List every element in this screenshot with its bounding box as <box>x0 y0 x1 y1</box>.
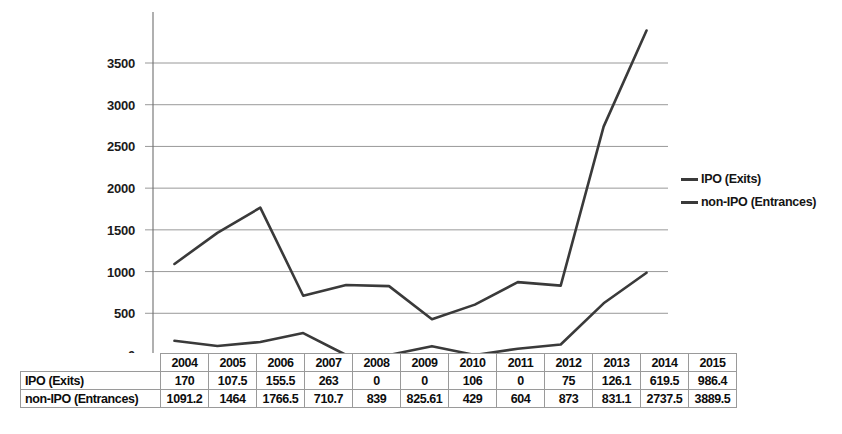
series-line <box>174 273 646 355</box>
y-axis-tick-label: 500 <box>75 306 135 321</box>
gridlines <box>145 63 668 355</box>
table-cell-value: 831.1 <box>593 390 641 408</box>
table-row: non-IPO (Entrances)1091.214641766.5710.7… <box>21 390 737 408</box>
table-header-year: 2012 <box>545 354 593 372</box>
table-cell-value: 75 <box>545 372 593 390</box>
table-header-year: 2005 <box>209 354 257 372</box>
table-header-row: 2004200520062007200820092010201120122013… <box>21 354 737 372</box>
table-cell-value: 825.61 <box>401 390 449 408</box>
table-header-year: 2006 <box>257 354 305 372</box>
table-cell-value: 1766.5 <box>257 390 305 408</box>
legend-item-ipo-exits: IPO (Exits) <box>681 172 841 186</box>
table-cell-value: 170 <box>161 372 209 390</box>
table-cell-value: 1091.2 <box>161 390 209 408</box>
table-header-year: 2011 <box>497 354 545 372</box>
table-header-year: 2008 <box>353 354 401 372</box>
legend-line-swatch-icon <box>681 178 698 181</box>
table-cell-value: 986.4 <box>689 372 737 390</box>
table-header-year: 2015 <box>689 354 737 372</box>
legend-label: non-IPO (Entrances) <box>701 195 816 209</box>
table-cell-value: 619.5 <box>641 372 689 390</box>
table-row-label: non-IPO (Entrances) <box>21 390 161 408</box>
chart-legend: IPO (Exits) non-IPO (Entrances) <box>681 172 841 218</box>
table-row: IPO (Exits)170107.5155.526300106075126.1… <box>21 372 737 390</box>
table-cell-value: 0 <box>497 372 545 390</box>
legend-label: IPO (Exits) <box>701 172 761 186</box>
table-cell-value: 839 <box>353 390 401 408</box>
table-header-year: 2009 <box>401 354 449 372</box>
y-axis-tick-label: 2500 <box>75 139 135 154</box>
chart-figure: 0500100015002000250030003500 IPO (Exits)… <box>0 0 842 434</box>
table-cell-value: 0 <box>353 372 401 390</box>
table-cell-value: 429 <box>449 390 497 408</box>
table-cell-value: 604 <box>497 390 545 408</box>
table-header-year: 2004 <box>161 354 209 372</box>
table-cell-value: 155.5 <box>257 372 305 390</box>
table-cell-value: 107.5 <box>209 372 257 390</box>
table-cell-value: 126.1 <box>593 372 641 390</box>
table-header-year: 2010 <box>449 354 497 372</box>
series-line <box>174 31 646 320</box>
y-axis-tick-label: 1000 <box>75 264 135 279</box>
table-cell-value: 2737.5 <box>641 390 689 408</box>
table-cell-value: 710.7 <box>305 390 353 408</box>
table-row-label: IPO (Exits) <box>21 372 161 390</box>
table-header-year: 2014 <box>641 354 689 372</box>
table-corner-cell <box>21 354 161 372</box>
chart-data-table: 2004200520062007200820092010201120122013… <box>20 353 737 408</box>
table-header-year: 2007 <box>305 354 353 372</box>
table-cell-value: 263 <box>305 372 353 390</box>
y-axis-tick-label: 3500 <box>75 56 135 71</box>
y-axis-tick-label: 3000 <box>75 97 135 112</box>
y-axis-tick-label: 2000 <box>75 181 135 196</box>
table-header-year: 2013 <box>593 354 641 372</box>
table-cell-value: 873 <box>545 390 593 408</box>
legend-line-swatch-icon <box>681 201 698 204</box>
table-cell-value: 3889.5 <box>689 390 737 408</box>
legend-item-non-ipo-entrances: non-IPO (Entrances) <box>681 195 841 209</box>
series-lines <box>174 31 646 355</box>
y-axis-tick-label: 1500 <box>75 222 135 237</box>
table-cell-value: 0 <box>401 372 449 390</box>
table-cell-value: 1464 <box>209 390 257 408</box>
table-cell-value: 106 <box>449 372 497 390</box>
